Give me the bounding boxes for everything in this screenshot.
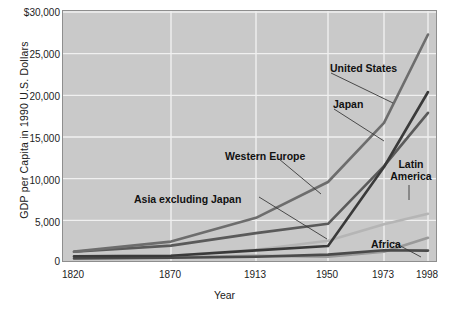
leader-line [279, 159, 321, 194]
y-tick-label: 25,000 [4, 50, 60, 60]
series-label-latin-america: Latin America [383, 158, 439, 182]
x-tick-label: 1913 [225, 269, 285, 280]
chart-canvas [63, 11, 437, 262]
y-tick-label: 0 [4, 257, 60, 267]
x-axis-title: Year [0, 289, 449, 301]
x-tick-label: 1820 [43, 269, 103, 280]
series-label-africa: Africa [371, 238, 401, 250]
series-label-united-states: United States [330, 62, 397, 74]
y-tick-label: 15,000 [4, 134, 60, 144]
leader-line [334, 109, 384, 141]
y-tick-label: $30,000 [4, 8, 60, 18]
x-tick-label: 1950 [297, 269, 357, 280]
chart-figure: GDP per Capita in 1990 U.S. Dollars $30,… [0, 0, 449, 312]
plot-area [62, 10, 437, 262]
x-tick-label: 1870 [140, 269, 200, 280]
series-label-western-europe: Western Europe [225, 150, 305, 162]
x-tick-label: 1998 [397, 269, 449, 280]
y-tick-label: 10,000 [4, 176, 60, 186]
y-axis-ticks: $30,000 25,000 20,000 15,000 10,000 5,00… [0, 0, 60, 312]
series-label-asia-excluding-japan: Asia excluding Japan [134, 193, 241, 205]
series-label-japan: Japan [333, 98, 363, 110]
y-tick-label: 20,000 [4, 92, 60, 102]
y-tick-label: 5,000 [4, 218, 60, 228]
